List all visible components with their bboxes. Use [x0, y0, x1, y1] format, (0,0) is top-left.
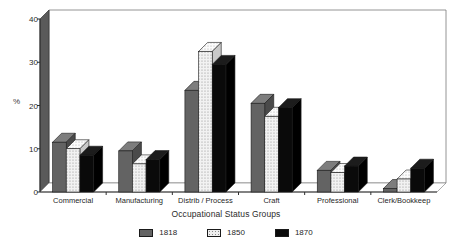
- y-axis-tick-label: 40: [20, 15, 38, 24]
- y-axis-tick-label: 20: [20, 101, 38, 110]
- legend-swatch: [139, 229, 153, 237]
- bar: [345, 157, 368, 192]
- bar: [278, 99, 301, 192]
- x-axis-tick-label: Manufacturing: [115, 196, 163, 205]
- bar: [212, 55, 235, 192]
- legend-item: 1818: [139, 228, 177, 237]
- x-axis-tick-label: Craft: [263, 196, 279, 205]
- x-axis-tick-label: Clerk/Bookkeep: [377, 196, 430, 205]
- y-axis-title: %: [13, 97, 20, 106]
- legend-label: 1870: [295, 228, 313, 237]
- y-axis-tick-label: 30: [20, 58, 38, 67]
- legend-label: 1850: [227, 228, 245, 237]
- x-axis-title: Occupational Status Groups: [0, 209, 452, 219]
- y-axis-tick-label: 0: [20, 188, 38, 197]
- y-axis-tick-label: 10: [20, 144, 38, 153]
- x-axis-tick-label: Professional: [317, 196, 358, 205]
- bar: [80, 146, 103, 192]
- x-axis-tick-label: Commercial: [53, 196, 93, 205]
- x-axis-tick-label: Distrib / Process: [178, 196, 233, 205]
- bar-chart: 010203040 % CommercialManufacturingDistr…: [0, 0, 452, 252]
- chart-legend: 181818501870: [0, 228, 452, 237]
- legend-label: 1818: [159, 228, 177, 237]
- legend-item: 1870: [275, 228, 313, 237]
- bar: [146, 151, 169, 192]
- legend-swatch: [275, 229, 289, 237]
- legend-swatch: [207, 229, 221, 237]
- legend-item: 1850: [207, 228, 245, 237]
